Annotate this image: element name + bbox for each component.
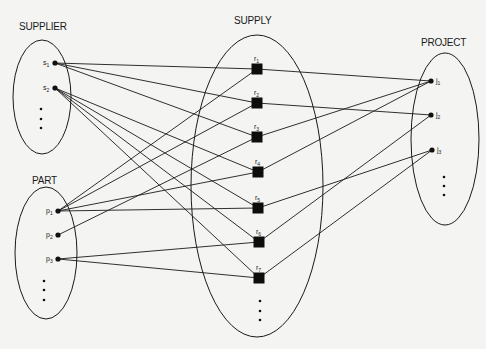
node-s2: s2 bbox=[43, 84, 58, 93]
supplier-ellipsis-icon bbox=[40, 108, 43, 130]
edge-s2-r6 bbox=[55, 88, 259, 242]
entity-nodes: s1s2p1p2p3r1r2r3r4r5r6r7j1j2j3 bbox=[43, 55, 442, 284]
entity-dot-icon bbox=[52, 60, 57, 65]
relationship-square-icon bbox=[254, 237, 265, 248]
node-s1-label: s1 bbox=[43, 59, 50, 68]
edge-p1-r4 bbox=[58, 172, 258, 211]
edge-r6-j2 bbox=[259, 115, 431, 242]
project-ellipsis-icon bbox=[443, 176, 446, 197]
node-j3: j3 bbox=[429, 146, 441, 155]
entity-dot-icon bbox=[55, 232, 60, 237]
edge-p1-r5 bbox=[58, 208, 258, 211]
node-r2-label: r2 bbox=[254, 89, 259, 98]
edge-s2-r5 bbox=[55, 88, 258, 208]
node-p1: p1 bbox=[46, 207, 61, 216]
node-j1-label: j1 bbox=[435, 77, 441, 86]
relationship-square-icon bbox=[253, 167, 264, 178]
node-p2-label: p2 bbox=[46, 231, 53, 240]
entity-dot-icon bbox=[55, 256, 60, 261]
node-p3: p3 bbox=[46, 255, 61, 264]
entity-dot-icon bbox=[429, 147, 434, 152]
edge-s2-r7 bbox=[55, 88, 259, 278]
set-supply-ellipse bbox=[191, 35, 323, 337]
node-r7-label: r7 bbox=[256, 264, 261, 273]
relationship-square-icon bbox=[253, 203, 264, 214]
node-r5: r5 bbox=[253, 194, 264, 214]
node-r6-label: r6 bbox=[256, 228, 261, 237]
set-part: PART bbox=[15, 175, 77, 319]
relationship-edges bbox=[55, 63, 432, 278]
node-r5-label: r5 bbox=[255, 194, 260, 203]
node-j2-label: j2 bbox=[435, 111, 441, 120]
part-ellipsis-icon bbox=[43, 280, 46, 302]
node-s2-label: s2 bbox=[43, 84, 50, 93]
set-project: PROJECT bbox=[411, 37, 479, 225]
node-r7: r7 bbox=[254, 264, 265, 284]
node-r3-label: r3 bbox=[254, 123, 259, 132]
er-diagram: SUPPLIERPARTSUPPLYPROJECT s1s2p1p2p3r1r2… bbox=[0, 0, 486, 349]
node-r3: r3 bbox=[252, 123, 263, 143]
set-supply-label: SUPPLY bbox=[234, 15, 272, 26]
edge-r1-j1 bbox=[257, 69, 431, 81]
edge-s1-r3 bbox=[55, 63, 257, 137]
edge-p2-r3 bbox=[58, 137, 257, 235]
edge-s1-r1 bbox=[55, 63, 257, 69]
entity-dot-icon bbox=[55, 208, 60, 213]
edge-r7-j3 bbox=[259, 150, 432, 278]
set-part-label: PART bbox=[32, 175, 57, 186]
relationship-square-icon bbox=[254, 273, 265, 284]
entity-dot-icon bbox=[428, 112, 433, 117]
set-supplier: SUPPLIER bbox=[13, 21, 71, 154]
supply-ellipsis-icon bbox=[259, 300, 262, 322]
node-j2: j2 bbox=[428, 111, 440, 120]
set-supplier-label: SUPPLIER bbox=[19, 21, 67, 32]
entity-sets: SUPPLIERPARTSUPPLYPROJECT bbox=[13, 15, 479, 337]
set-project-label: PROJECT bbox=[421, 37, 466, 48]
node-j1: j1 bbox=[428, 77, 440, 86]
set-project-ellipse bbox=[411, 53, 479, 225]
node-p3-label: p3 bbox=[46, 255, 53, 264]
edge-r3-j1 bbox=[257, 81, 431, 137]
node-r1-label: r1 bbox=[254, 55, 259, 64]
node-p2: p2 bbox=[46, 231, 61, 240]
node-r2: r2 bbox=[252, 89, 263, 109]
node-r1: r1 bbox=[252, 55, 263, 75]
node-r4: r4 bbox=[253, 158, 264, 178]
edge-r4-j1 bbox=[258, 81, 431, 172]
edge-p3-r7 bbox=[58, 259, 259, 278]
node-r6: r6 bbox=[254, 228, 265, 248]
edge-s1-r2 bbox=[55, 63, 257, 103]
set-supplier-ellipse bbox=[13, 40, 71, 154]
node-j3-label: j3 bbox=[436, 146, 442, 155]
node-s1: s1 bbox=[43, 59, 58, 68]
relationship-square-icon bbox=[252, 98, 263, 109]
entity-dot-icon bbox=[428, 78, 433, 83]
entity-dot-icon bbox=[52, 85, 57, 90]
relationship-square-icon bbox=[252, 64, 263, 75]
node-p1-label: p1 bbox=[46, 207, 53, 216]
relationship-square-icon bbox=[252, 132, 263, 143]
node-r4-label: r4 bbox=[255, 158, 260, 167]
